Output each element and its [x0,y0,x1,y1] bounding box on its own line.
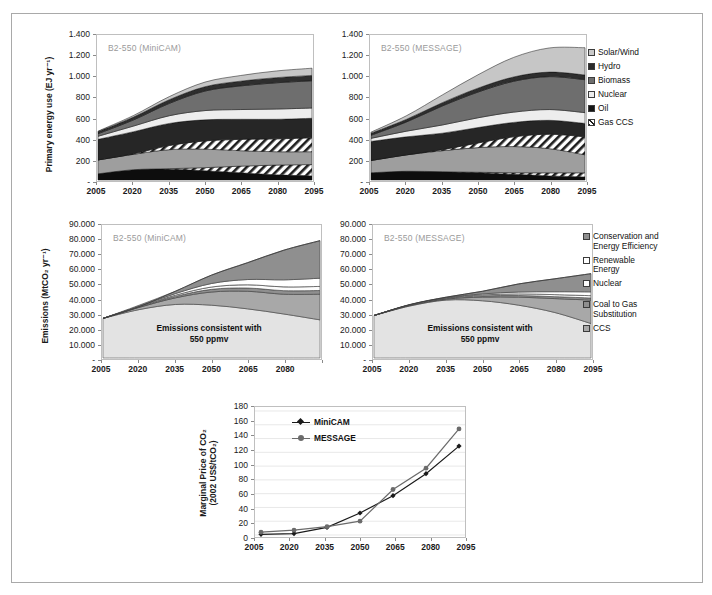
x-tick-mark [132,182,133,185]
legend-energy-item[interactable]: Oil [588,104,700,114]
legend-energy-item[interactable]: Nuclear [588,90,700,100]
y-tick-label: 600 [42,114,90,124]
data-point-marker [358,519,363,524]
legend-emissions-label: Nuclear [593,279,622,289]
x-tick-mark [409,360,410,363]
x-tick-label: 2065 [221,186,261,196]
y-tick-label: 50.000 [47,279,95,289]
y-tick-label: 30.000 [318,310,366,320]
panel-primary-energy-minicam: Primary energy use (EJ yr⁻¹) 1.4001.2001… [30,22,320,212]
x-tick-mark [556,360,557,363]
y-tick-label: 40.000 [318,295,366,305]
x-tick-mark [212,360,213,363]
x-tick-mark [514,182,515,185]
panel-tag-top-left: B2-550 (MiniCAM) [108,43,181,53]
x-tick-label: 2080 [531,186,571,196]
legend-price-item[interactable]: MESSAGE [292,434,392,444]
y-tick-label: 1.000 [315,71,363,81]
x-tick-mark [478,182,479,185]
x-tick-mark [395,538,396,541]
annotation-550-ppmv-right: Emissions consistent with 550 ppmv [405,323,555,345]
legend-emissions-label: Coal to Gas Substitution [593,300,637,319]
x-tick-mark [466,538,467,541]
x-tick-label: 2020 [385,186,425,196]
x-tick-mark [369,182,370,185]
y-tick-label: 50.000 [318,279,366,289]
legend-emissions-item[interactable]: Coal to Gas Substitution [583,300,703,319]
x-tick-label: 2020 [112,186,152,196]
y-tick-label: 60.000 [47,264,95,274]
legend-emissions-label: Conservation and Energy Efficiency [593,232,659,251]
legend-line-diamond-icon [292,418,310,427]
x-tick-label: 2095 [567,186,607,196]
data-point-marker [357,510,362,515]
legend-energy-label: Solar/Wind [598,48,639,58]
x-tick-mark [96,182,97,185]
plot-area-top-right: B2-550 (MESSAGE) [369,34,587,182]
legend-swatch-icon [588,63,595,70]
y-tick-label: 20 [200,518,248,528]
data-point-marker [457,427,462,432]
y-tick-label: 400 [42,135,90,145]
x-tick-mark [248,360,249,363]
y-tick-label: 80.000 [318,234,366,244]
y-tick-label: 160 [200,416,248,426]
y-tick-label: 200 [315,156,363,166]
legend-energy-item[interactable]: Solar/Wind [588,48,700,58]
x-tick-label: 2065 [494,186,534,196]
x-tick-label: 2095 [573,364,613,374]
x-tick-label: 2005 [349,186,389,196]
legend-swatch-icon [588,77,595,84]
legend-swatch-icon [583,301,590,308]
x-tick-label: 2020 [118,364,158,374]
legend-price-item[interactable]: MiniCAM [292,418,392,428]
x-tick-mark [325,538,326,541]
y-tick-label: 200 [42,156,90,166]
legend-emissions-item[interactable]: Conservation and Energy Efficiency [583,232,703,251]
y-tick-label: 40 [200,504,248,514]
legend-primary-energy: Solar/WindHydroBiomassNuclearOilGas CCS [588,48,700,133]
legend-emissions-item[interactable]: Renewable Energy [583,256,703,275]
x-tick-mark [138,360,139,363]
legend-swatch-icon [588,119,595,126]
y-tick-label: 1.400 [42,29,90,39]
x-tick-mark [254,538,255,541]
legend-energy-item[interactable]: Hydro [588,62,700,72]
legend-emissions-item[interactable]: Nuclear [583,279,703,289]
y-tick-label: 20.000 [47,325,95,335]
x-tick-label: 2020 [389,364,429,374]
x-tick-label: 2005 [234,542,274,552]
x-tick-label: 2050 [185,186,225,196]
legend-line-circle-icon [292,434,310,443]
legend-swatch-icon [583,257,590,264]
y-tick-label: 80 [200,474,248,484]
x-tick-label: 2065 [375,542,415,552]
panel-primary-energy-message: 1.4001.2001.000800600400200- B2-550 (MES… [325,22,590,212]
x-tick-mark [175,360,176,363]
y-tick-label: 100 [200,460,248,470]
x-tick-mark [587,182,588,185]
panel-tag-mid-right: B2-550 (MESSAGE) [384,233,465,243]
y-tick-label: 90.000 [47,219,95,229]
x-tick-mark [360,538,361,541]
legend-energy-label: Nuclear [598,90,627,100]
y-tick-label: 60.000 [318,264,366,274]
legend-emissions-item[interactable]: CCS [583,324,703,334]
y-tick-label: 70.000 [47,249,95,259]
legend-energy-item[interactable]: Biomass [588,76,700,86]
x-tick-label: 2050 [458,186,498,196]
y-tick-label: 1.200 [42,50,90,60]
x-tick-mark [241,182,242,185]
legend-energy-label: Oil [598,104,608,114]
x-tick-mark [101,360,102,363]
legend-price-label: MiniCAM [314,418,350,428]
legend-price-label: MESSAGE [314,434,356,444]
x-tick-label: 2080 [536,364,576,374]
y-tick-label: 400 [315,135,363,145]
data-point-marker [325,524,330,529]
legend-swatch-icon [588,49,595,56]
plot-area-mid-left: B2-550 (MiniCAM) Emissions consistent wi… [101,224,322,360]
data-point-marker [424,466,429,471]
x-tick-label: 2080 [258,186,298,196]
legend-energy-item[interactable]: Gas CCS [588,118,700,128]
